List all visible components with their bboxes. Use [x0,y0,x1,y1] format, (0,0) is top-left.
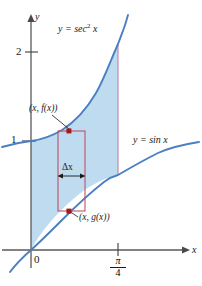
upper-point-leader-line [52,115,69,129]
y-tick-label-2: 2 [16,46,22,57]
upper-point-marker [66,128,71,133]
origin-label: 0 [34,254,40,265]
y-axis-label: y [35,12,39,22]
figure-container: y x 2 1 0 π 4 y = sec2 x y = sin x (x, f… [0,0,202,286]
delta-x-label: Δx [62,163,73,173]
upper-point-label: (x, f(x)) [29,104,57,114]
sec-label-suffix: x [90,23,97,34]
sec-label-main: y = sec [58,23,87,34]
fraction-numerator: π [110,256,126,266]
fraction-denominator: 4 [110,268,126,278]
plot-svg [0,0,202,286]
x-axis-arrow [182,246,190,253]
lower-point-label: (x, g(x)) [79,213,110,223]
y-axis-arrow [27,14,34,22]
lower-point-marker [66,209,71,214]
sec-squared-curve-label: y = sec2 x [58,24,97,34]
sin-label-text: y = sin x [133,134,168,145]
y-tick-label-1: 1 [11,134,17,145]
x-tick-label-pi-over-4: π 4 [110,256,126,278]
sin-curve-label: y = sin x [133,135,168,145]
x-axis-label: x [192,245,196,255]
